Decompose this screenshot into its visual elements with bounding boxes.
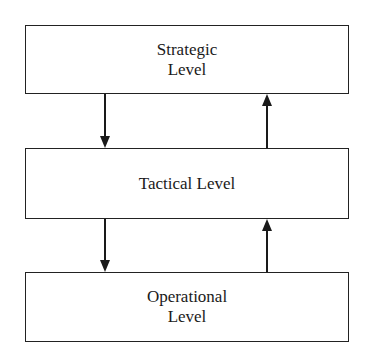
arrow-up-icon — [262, 94, 272, 148]
arrow-down-icon — [100, 94, 110, 148]
arrow-down-icon — [100, 219, 110, 272]
arrows-layer — [0, 0, 374, 360]
arrow-up-icon — [262, 219, 272, 272]
